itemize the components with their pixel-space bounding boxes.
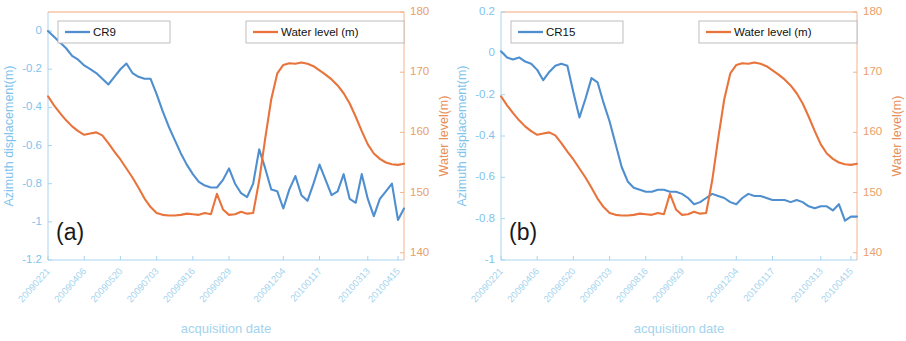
plot-svg-b: 0.20-0.2-0.4-0.6-0.8-1180170160150140200… xyxy=(453,0,906,341)
series-line-cr9 xyxy=(48,31,404,220)
x-axis-tick-label: 20090816 xyxy=(160,265,196,304)
series-line-water-level-m xyxy=(48,63,404,216)
x-axis-tick-label: 20090520 xyxy=(88,265,124,304)
left-axis-tick-label: -0.8 xyxy=(475,212,495,224)
x-axis-tick-label: 20090406 xyxy=(505,265,541,304)
left-axis-tick-label: -0.4 xyxy=(475,129,495,141)
x-axis-tick-label: 20090703 xyxy=(124,265,160,304)
figure-root: 0-0.2-0.4-0.6-0.8-1-1.218017016015014020… xyxy=(0,0,906,341)
right-axis-tick-label: 170 xyxy=(863,65,882,77)
x-axis-tick-label: 20090221 xyxy=(16,265,52,304)
x-axis-title: acquisition date xyxy=(181,321,271,336)
x-axis-tick-label: 20090406 xyxy=(52,265,88,304)
right-axis-tick-label: 140 xyxy=(410,246,429,258)
left-axis-title: Azimuth displacement(m) xyxy=(2,65,16,206)
chart-panel-a: 0-0.2-0.4-0.6-0.8-1-1.218017016015014020… xyxy=(0,0,453,341)
right-axis-tick-label: 170 xyxy=(410,65,429,77)
left-axis-tick-label: -1 xyxy=(32,215,42,227)
plot-svg-a: 0-0.2-0.4-0.6-0.8-1-1.218017016015014020… xyxy=(0,0,453,341)
right-axis-title: Water level(m) xyxy=(437,96,451,177)
panel-label: (a) xyxy=(56,219,84,245)
left-axis-tick-label: -0.8 xyxy=(22,177,42,189)
x-axis-tick-label: 20090703 xyxy=(577,265,613,304)
x-axis-tick-label: 20091204 xyxy=(704,265,740,304)
right-axis-tick-label: 150 xyxy=(410,186,429,198)
x-axis-tick-label: 20090929 xyxy=(650,265,686,304)
x-axis-tick-label: 20100117 xyxy=(288,265,324,303)
left-axis-title: Azimuth displacement(m) xyxy=(455,65,469,206)
left-axis-tick-label: -0.6 xyxy=(475,170,495,182)
left-axis-tick-label: -0.6 xyxy=(22,139,42,151)
x-axis-tick-label: 20091204 xyxy=(251,265,287,304)
legend-label: CR15 xyxy=(546,26,575,38)
left-axis-tick-label: -0.2 xyxy=(22,62,42,74)
x-axis-tick-label: 20100117 xyxy=(741,265,777,303)
left-axis-tick-label: -1 xyxy=(485,253,495,265)
x-axis-title: acquisition date xyxy=(634,321,724,336)
right-axis-tick-label: 180 xyxy=(410,5,429,17)
panel-label: (b) xyxy=(509,219,537,245)
chart-panel-b: 0.20-0.2-0.4-0.6-0.8-1180170160150140200… xyxy=(453,0,906,341)
x-axis-tick-label: 20100415 xyxy=(819,265,855,304)
legend-item-water-level-m[interactable]: Water level (m) xyxy=(246,21,404,43)
left-axis-tick-label: -0.2 xyxy=(475,88,495,100)
right-axis-tick-label: 160 xyxy=(863,125,882,137)
left-axis-tick-label: -1.2 xyxy=(22,253,42,265)
left-axis-tick-label: 0.2 xyxy=(479,5,495,17)
legend-item-cr15[interactable]: CR15 xyxy=(511,21,623,43)
x-axis-tick-label: 20100415 xyxy=(366,265,402,304)
legend-label: Water level (m) xyxy=(734,26,812,38)
legend-item-water-level-m[interactable]: Water level (m) xyxy=(699,21,857,43)
left-axis-tick-label: -0.4 xyxy=(22,100,42,112)
right-axis-tick-label: 140 xyxy=(863,246,882,258)
x-axis-tick-label: 20090221 xyxy=(469,265,505,304)
legend-label: CR9 xyxy=(93,26,116,38)
left-axis-tick-label: 0 xyxy=(489,46,495,58)
x-axis-tick-label: 20090816 xyxy=(613,265,649,304)
legend-label: Water level (m) xyxy=(281,26,359,38)
legend-item-cr9[interactable]: CR9 xyxy=(58,21,170,43)
x-axis-tick-label: 20090929 xyxy=(197,265,233,304)
x-axis-tick-label: 20090520 xyxy=(541,265,577,304)
right-axis-title: Water level(m) xyxy=(890,96,904,177)
right-axis-tick-label: 180 xyxy=(863,5,882,17)
right-axis-tick-label: 160 xyxy=(410,125,429,137)
left-axis-tick-label: 0 xyxy=(36,24,42,36)
right-axis-tick-label: 150 xyxy=(863,186,882,198)
